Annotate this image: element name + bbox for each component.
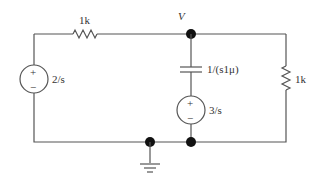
voltage-source-middle-label: 3/s <box>209 104 222 116</box>
minus-sign: − <box>30 81 36 93</box>
resistor-right-label: 1k <box>295 73 307 85</box>
wire-left-bottom <box>34 93 150 142</box>
node-v-label: V <box>178 10 186 22</box>
capacitor <box>180 67 202 72</box>
wire-right-bottom <box>150 90 286 142</box>
minus-sign: − <box>187 112 193 124</box>
circuit-diagram: 1k + − 2/s V 1/(s1μ) + − 3/s 1k <box>0 0 319 185</box>
capacitor-label: 1/(s1μ) <box>207 63 239 76</box>
plus-sign: + <box>30 66 36 78</box>
resistor-left-label: 1k <box>79 14 91 26</box>
voltage-source-left-label: 2/s <box>52 73 65 85</box>
voltage-source-middle: + − <box>177 96 205 124</box>
resistor-left <box>73 30 97 38</box>
ground-icon <box>140 142 160 172</box>
plus-sign: + <box>187 97 193 109</box>
node-bottom-middle <box>186 137 196 147</box>
resistor-right <box>282 66 290 90</box>
voltage-source-left: + − <box>20 65 48 93</box>
